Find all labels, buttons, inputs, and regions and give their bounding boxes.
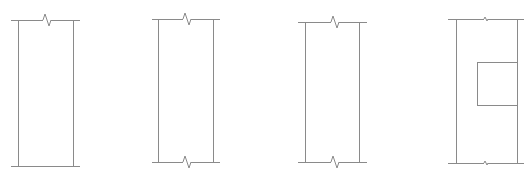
break-symbol-icon: [43, 14, 51, 26]
break-symbol-icon: [484, 161, 488, 165]
break-symbol-icon: [183, 156, 191, 168]
panel-1: [11, 14, 80, 166]
panel-2: [152, 13, 220, 168]
panel-3: [298, 16, 367, 168]
break-symbol-icon: [484, 17, 488, 21]
panel-elevations-drawing: [0, 0, 532, 179]
panel-4: [448, 17, 524, 165]
break-symbol-icon: [331, 16, 339, 28]
break-symbol-icon: [331, 156, 339, 168]
diagram-canvas: [0, 0, 532, 179]
break-symbol-icon: [183, 13, 191, 25]
opening-rect: [477, 62, 517, 105]
